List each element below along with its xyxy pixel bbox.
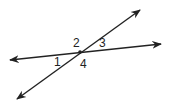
angle-label-1: 1 xyxy=(54,55,61,69)
angle-label-2: 2 xyxy=(73,36,80,50)
angle-label-4: 4 xyxy=(80,57,87,71)
intersection-point xyxy=(78,50,82,54)
angle-label-3: 3 xyxy=(99,36,106,50)
line-b xyxy=(17,10,140,99)
intersecting-lines-diagram: 1 2 3 4 xyxy=(0,0,181,104)
